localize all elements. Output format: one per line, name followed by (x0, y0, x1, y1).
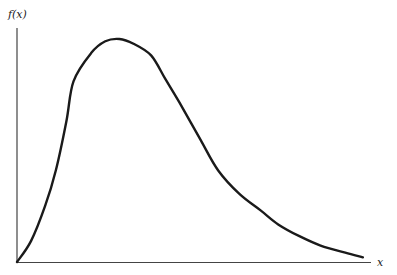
y-axis-label: f(x) (8, 8, 27, 21)
x-axis-label: x (377, 256, 383, 269)
density-curve (17, 39, 363, 262)
density-chart (0, 0, 397, 275)
